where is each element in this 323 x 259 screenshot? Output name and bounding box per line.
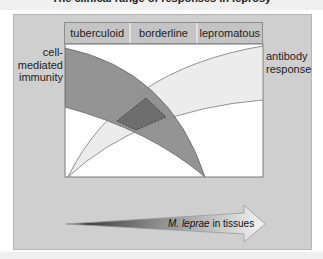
bottom-strip — [0, 252, 323, 259]
header-tuberculoid: tuberculoid — [65, 23, 129, 43]
header-borderline: borderline — [129, 23, 195, 43]
spectrum-header: tuberculoid borderline lepromatous — [64, 22, 263, 44]
arrow-label: M. leprae in tissues — [168, 218, 254, 229]
header-lepromatous: lepromatous — [196, 23, 262, 43]
antibody-label: antibody response — [266, 50, 316, 75]
cell-mediated-label: cell- mediated immunity — [14, 46, 63, 84]
